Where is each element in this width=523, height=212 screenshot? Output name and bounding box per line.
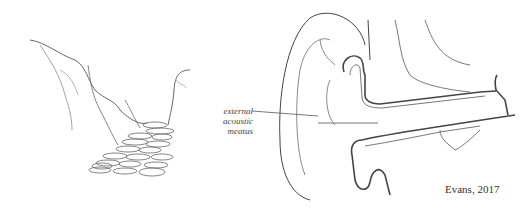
illustration-canvas [0, 0, 523, 212]
canyon-drawing [30, 40, 190, 176]
ear-drawing [280, 13, 515, 200]
meatus-label-line2: meatus [205, 126, 253, 136]
meatus-label-line1: external acoustic [205, 106, 253, 126]
meatus-label: external acoustic meatus [205, 106, 253, 136]
meatus-leader-line [252, 111, 318, 116]
figure-credit: Evans, 2017 [445, 183, 499, 195]
